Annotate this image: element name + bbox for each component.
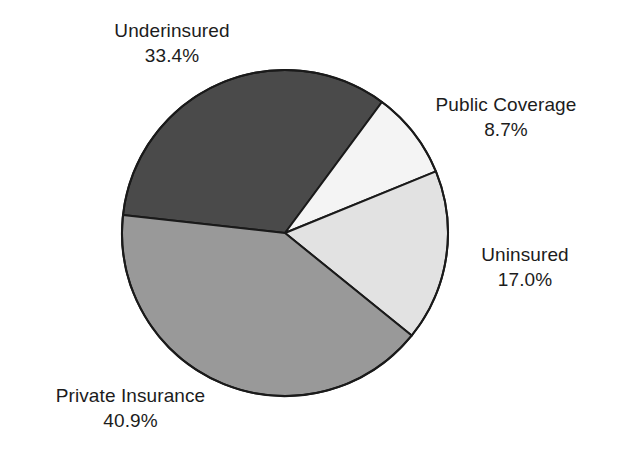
slice-label-public-coverage-value: 8.7%: [406, 117, 606, 142]
slice-label-private-insurance-name: Private Insurance: [18, 383, 243, 408]
slice-label-uninsured: Uninsured 17.0%: [440, 242, 610, 292]
pie-slices: [122, 70, 448, 396]
slice-label-uninsured-value: 17.0%: [440, 267, 610, 292]
slice-label-public-coverage: Public Coverage 8.7%: [406, 92, 606, 142]
slice-label-public-coverage-name: Public Coverage: [406, 92, 606, 117]
pie-chart-figure: Underinsured 33.4% Public Coverage 8.7% …: [0, 0, 624, 466]
slice-label-private-insurance-value: 40.9%: [18, 408, 243, 433]
slice-label-underinsured: Underinsured 33.4%: [62, 18, 282, 68]
slice-label-uninsured-name: Uninsured: [440, 242, 610, 267]
slice-label-underinsured-name: Underinsured: [62, 18, 282, 43]
slice-label-private-insurance: Private Insurance 40.9%: [18, 383, 243, 433]
slice-label-underinsured-value: 33.4%: [62, 43, 282, 68]
